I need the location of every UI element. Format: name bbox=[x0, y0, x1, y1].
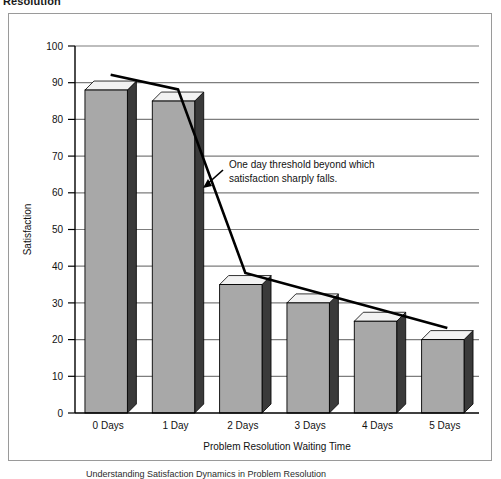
x-axis-tick-label: 2 Days bbox=[227, 420, 258, 431]
bar-front-face[interactable] bbox=[220, 285, 262, 413]
bar-top-face bbox=[422, 331, 473, 340]
bar-side-face bbox=[127, 81, 136, 413]
y-axis-tick-label: 70 bbox=[52, 151, 64, 162]
y-axis-tick-label: 100 bbox=[46, 41, 63, 52]
y-axis-tick-label: 50 bbox=[52, 224, 64, 235]
figure-title: Resolution bbox=[3, 0, 61, 7]
x-axis-tick-label: 5 Days bbox=[429, 420, 460, 431]
y-axis-tick-label: 0 bbox=[57, 408, 63, 419]
x-axis-tick-label: 1 Day bbox=[162, 420, 188, 431]
chart-frame: 0102030405060708090100Satisfaction 0 Day… bbox=[8, 13, 492, 461]
bar-front-face[interactable] bbox=[287, 303, 329, 413]
x-axis-title: Problem Resolution Waiting Time bbox=[203, 441, 351, 452]
y-axis-tick-label: 80 bbox=[52, 114, 64, 125]
x-axis-tick-label: 0 Days bbox=[93, 420, 124, 431]
bar-column bbox=[220, 276, 271, 413]
x-axis-tick-label: 4 Days bbox=[362, 420, 393, 431]
y-axis-title: Satisfaction bbox=[22, 204, 33, 256]
bar-top-face bbox=[152, 92, 203, 101]
y-axis-group: 0102030405060708090100Satisfaction bbox=[22, 41, 75, 419]
annotation-line-1: One day threshold beyond which bbox=[229, 159, 375, 170]
bar-side-face bbox=[262, 276, 271, 413]
figure-caption: Understanding Satisfaction Dynamics in P… bbox=[86, 469, 326, 479]
bar-front-face[interactable] bbox=[422, 340, 464, 413]
bar-front-face[interactable] bbox=[152, 101, 194, 413]
bar-column bbox=[354, 312, 405, 413]
chart-plot-area: 0102030405060708090100Satisfaction 0 Day… bbox=[9, 14, 493, 462]
bar-column bbox=[287, 294, 338, 413]
bar-side-face bbox=[464, 331, 473, 413]
bar-top-face bbox=[85, 81, 136, 90]
y-axis-tick-label: 60 bbox=[52, 187, 64, 198]
y-axis-tick-label: 10 bbox=[52, 371, 64, 382]
bar-side-face bbox=[329, 294, 338, 413]
annotation-group: One day threshold beyond whichsatisfacti… bbox=[203, 159, 375, 188]
bar-front-face[interactable] bbox=[85, 90, 127, 413]
y-axis-tick-label: 90 bbox=[52, 77, 64, 88]
x-axis-tick-label: 3 Days bbox=[295, 420, 326, 431]
bar-column bbox=[85, 81, 136, 413]
bar-column bbox=[422, 331, 473, 413]
annotation-line-2: satisfaction sharply falls. bbox=[229, 173, 337, 184]
y-axis-tick-label: 40 bbox=[52, 261, 64, 272]
y-axis-tick-label: 30 bbox=[52, 298, 64, 309]
bar-side-face bbox=[397, 312, 406, 413]
bar-front-face[interactable] bbox=[354, 321, 396, 413]
x-axis-group: 0 Days1 Day2 Days3 Days4 Days5 DaysProbl… bbox=[75, 413, 479, 452]
bar-chart-svg: 0102030405060708090100Satisfaction 0 Day… bbox=[9, 14, 493, 462]
bars-group bbox=[85, 81, 473, 413]
y-axis-tick-label: 20 bbox=[52, 334, 64, 345]
